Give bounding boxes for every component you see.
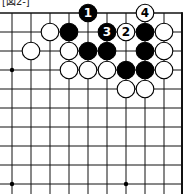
white-stone [41, 23, 59, 41]
move-number: 1 [84, 6, 92, 20]
black-stone [79, 42, 97, 60]
move-number: 4 [141, 6, 149, 20]
go-board: 1432 [0, 0, 183, 194]
move-number: 2 [122, 25, 130, 39]
white-stone [79, 61, 97, 79]
star-point [10, 68, 14, 72]
black-stone [60, 23, 78, 41]
white-stone [22, 42, 40, 60]
white-stone [155, 42, 173, 60]
black-stone [136, 42, 154, 60]
black-stone-1: 1 [79, 4, 97, 22]
white-stone-4: 4 [136, 4, 154, 22]
white-stone [117, 80, 135, 98]
white-stone [60, 42, 78, 60]
white-stone-2: 2 [117, 23, 135, 41]
white-stone [136, 80, 154, 98]
white-stone [155, 23, 173, 41]
white-stone [155, 61, 173, 79]
black-stone-3: 3 [98, 23, 116, 41]
black-stone [136, 61, 154, 79]
move-number: 3 [103, 25, 111, 39]
grid-lines [0, 12, 183, 194]
black-stone [98, 42, 116, 60]
white-stone [60, 61, 78, 79]
black-stone [117, 61, 135, 79]
black-stone [136, 23, 154, 41]
star-point [124, 182, 128, 186]
star-point [10, 182, 14, 186]
white-stone [98, 61, 116, 79]
